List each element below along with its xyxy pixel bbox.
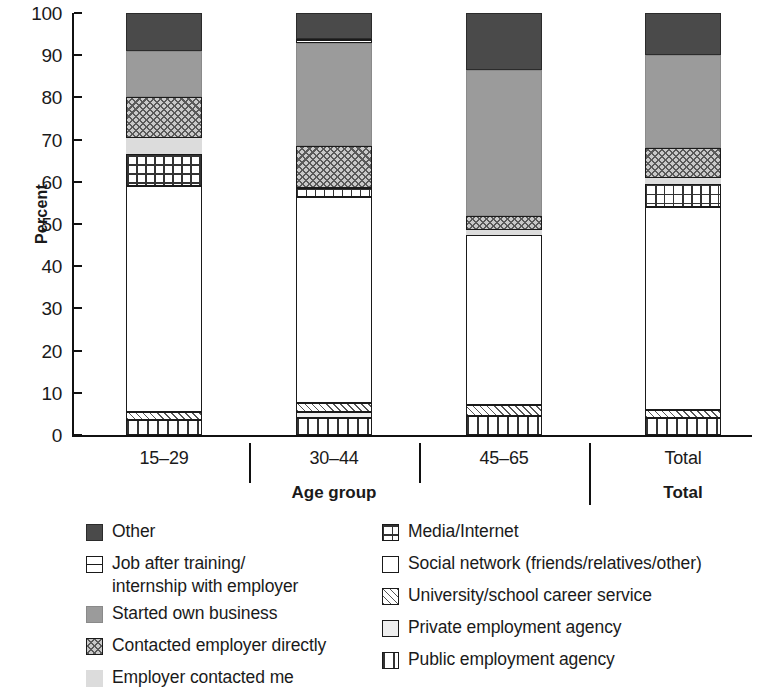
bar-segment[interactable] [645, 13, 721, 55]
y-axis-tick-label: 50 [16, 215, 62, 234]
bar-segment[interactable] [466, 70, 542, 216]
light-gray-solid-swatch-icon [86, 670, 103, 687]
bar-segment[interactable] [466, 405, 542, 416]
bar-segment[interactable] [466, 235, 542, 406]
bar-segment[interactable] [296, 403, 372, 411]
bar-segment[interactable] [296, 418, 372, 435]
bar-segment[interactable] [296, 13, 372, 39]
legend-item-label: Public employment agency [408, 648, 615, 671]
legend-item[interactable]: Social network (friends/relatives/other) [382, 552, 754, 580]
legend-item[interactable]: Job after training/ internship with empl… [86, 552, 386, 598]
x-axis-total-title: Total [623, 483, 743, 503]
bar-segment[interactable] [645, 184, 721, 207]
x-axis-category-label: 45–65 [434, 448, 574, 469]
bar-segment[interactable] [126, 412, 202, 420]
bar-segment[interactable] [296, 43, 372, 146]
y-axis-tick-label: 100 [16, 4, 62, 23]
legend-item[interactable]: Other [86, 520, 386, 548]
legend-column-left: OtherJob after training/ internship with… [86, 520, 386, 698]
x-axis-category-divider [249, 443, 251, 483]
x-axis-category-label: 15–29 [94, 448, 234, 469]
bar-segment[interactable] [296, 39, 372, 42]
bar-segment[interactable] [645, 148, 721, 178]
y-axis-tick-mark [74, 434, 82, 436]
y-axis-tick-mark [74, 265, 82, 267]
legend-item-label: Job after training/ internship with empl… [112, 552, 298, 598]
bar-segment[interactable] [466, 230, 542, 234]
bar-segment[interactable] [126, 13, 202, 51]
y-axis-tick-label: 30 [16, 299, 62, 318]
bar-segment[interactable] [466, 216, 542, 231]
bar-segment[interactable] [466, 416, 542, 435]
bar-segment[interactable] [126, 420, 202, 435]
bar-segment[interactable] [645, 178, 721, 184]
bar-segment[interactable] [126, 138, 202, 155]
x-axis-group-title: Age group [244, 483, 424, 503]
chart-container: Percent 1009080706050403020100 15–2930–4… [0, 0, 758, 520]
y-axis-tick-label: 90 [16, 46, 62, 65]
bar-segment[interactable] [126, 154, 202, 186]
legend-item[interactable]: Media/Internet [382, 520, 754, 548]
y-axis-tick-mark [74, 392, 82, 394]
checkered-swatch-icon [86, 638, 103, 655]
bar-segment[interactable] [296, 197, 372, 404]
legend-item-label: Private employment agency [408, 616, 621, 639]
legend-item-label: Other [112, 520, 155, 543]
y-axis-tick-label: 40 [16, 257, 62, 276]
diagonal-stripes-swatch-icon [382, 588, 399, 605]
legend-item-label: Started own business [112, 602, 277, 625]
y-axis-tick-mark [74, 96, 82, 98]
x-axis-category-label: 30–44 [264, 448, 404, 469]
grid-swatch-icon [382, 524, 399, 541]
bar-segment[interactable] [126, 186, 202, 412]
bar-segment[interactable] [466, 13, 542, 70]
bar-segment[interactable] [645, 418, 721, 435]
legend-item-label: Media/Internet [408, 520, 518, 543]
y-axis-tick-label: 60 [16, 172, 62, 191]
y-axis-tick-mark [74, 12, 82, 14]
y-axis-tick-label: 20 [16, 341, 62, 360]
light-solid-swatch-icon [382, 620, 399, 637]
legend-item[interactable]: Started own business [86, 602, 386, 630]
vertical-stripes-swatch-icon [382, 652, 399, 669]
y-axis-tick-label: 70 [16, 130, 62, 149]
legend-item[interactable]: Employer contacted me [86, 666, 386, 694]
y-axis-tick-mark [74, 307, 82, 309]
y-axis-tick-label: 10 [16, 383, 62, 402]
x-axis-line [72, 435, 752, 437]
y-axis-tick-mark [74, 350, 82, 352]
bar-segment[interactable] [645, 207, 721, 410]
bar-30-44[interactable] [296, 13, 372, 435]
bar-segment[interactable] [645, 410, 721, 418]
dark-gray-solid-swatch-icon [86, 524, 103, 541]
bar-segment[interactable] [296, 188, 372, 196]
bar-segment[interactable] [296, 146, 372, 188]
y-axis-tick-mark [74, 223, 82, 225]
bar-segment[interactable] [126, 51, 202, 97]
bar-total[interactable] [645, 13, 721, 435]
x-axis-category-label: Total [613, 448, 753, 469]
mid-gray-solid-swatch-icon [86, 606, 103, 623]
bar-segment[interactable] [645, 55, 721, 148]
legend-item-label: Social network (friends/relatives/other) [408, 552, 702, 575]
legend-item[interactable]: Contacted employer directly [86, 634, 386, 662]
x-axis-category-divider [419, 443, 421, 483]
legend: OtherJob after training/ internship with… [0, 520, 758, 698]
legend-item-label: Contacted employer directly [112, 634, 326, 657]
white-swatch-icon [382, 556, 399, 573]
legend-item-label: University/school career service [408, 584, 652, 607]
legend-item-label: Employer contacted me [112, 666, 294, 689]
y-axis-tick-mark [74, 181, 82, 183]
bar-segment[interactable] [126, 97, 202, 137]
legend-item[interactable]: Public employment agency [382, 648, 754, 676]
horizontal-line-box-swatch-icon [86, 556, 103, 573]
legend-item[interactable]: Private employment agency [382, 616, 754, 644]
y-axis-tick-label: 0 [16, 426, 62, 445]
legend-item[interactable]: University/school career service [382, 584, 754, 612]
y-axis-tick-labels: 1009080706050403020100 [16, 0, 62, 460]
bar-45-65[interactable] [466, 13, 542, 435]
bar-15-29[interactable] [126, 13, 202, 435]
x-axis-category-divider [589, 443, 591, 505]
y-axis-tick-mark [74, 139, 82, 141]
bar-segment[interactable] [296, 412, 372, 418]
